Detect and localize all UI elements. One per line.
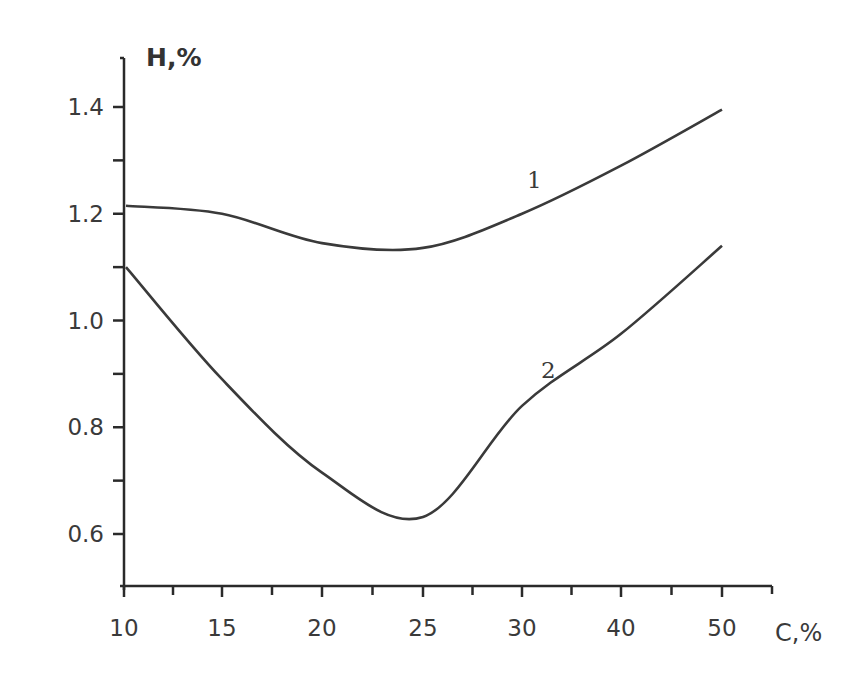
x-tick-label: 50	[707, 615, 736, 641]
y-tick-label: 0.6	[67, 521, 104, 547]
x-tick-label: 40	[606, 615, 635, 641]
axes	[120, 58, 772, 594]
y-tick-label: 1.2	[67, 201, 104, 227]
y-tick-label: 0.8	[67, 414, 104, 440]
x-axis-title: C,%	[775, 619, 822, 647]
x-tick-label: 30	[507, 615, 536, 641]
curve-2-label: 2	[541, 357, 556, 383]
x-tick-label: 10	[109, 615, 138, 641]
chart: 0.60.81.01.21.4 10152025304050 H,% C,% 1…	[0, 0, 868, 686]
curve-1-label: 1	[527, 167, 542, 193]
curves	[126, 110, 722, 520]
y-axis-title: H,%	[146, 43, 201, 72]
x-tick-label: 15	[207, 615, 236, 641]
curve-1	[126, 110, 722, 250]
y-tick-label: 1.0	[67, 308, 104, 334]
x-tick-label: 20	[307, 615, 336, 641]
y-tick-label: 1.4	[67, 94, 104, 120]
y-axis-ticks: 0.60.81.01.21.4	[67, 94, 124, 547]
x-axis-ticks: 10152025304050	[109, 586, 736, 641]
curve-2	[126, 246, 722, 519]
x-tick-label: 25	[408, 615, 437, 641]
